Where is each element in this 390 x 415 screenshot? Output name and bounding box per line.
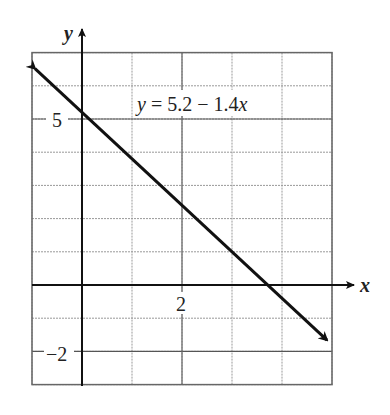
x-axis-label: x bbox=[359, 274, 370, 296]
x-tick-label-2: 2 bbox=[176, 293, 186, 315]
line-chart: x y 5 2 −2 y = 5.2 − 1.4x bbox=[0, 0, 390, 415]
equation-x: x bbox=[237, 93, 247, 115]
equation-y: y bbox=[135, 93, 146, 116]
y-tick-label-neg2: −2 bbox=[46, 343, 67, 365]
y-tick-label-5: 5 bbox=[52, 109, 62, 131]
equation-body: = 5.2 − 1.4 bbox=[146, 93, 239, 115]
y-axis-label: y bbox=[62, 22, 73, 45]
equation-label: y = 5.2 − 1.4x bbox=[135, 93, 247, 116]
